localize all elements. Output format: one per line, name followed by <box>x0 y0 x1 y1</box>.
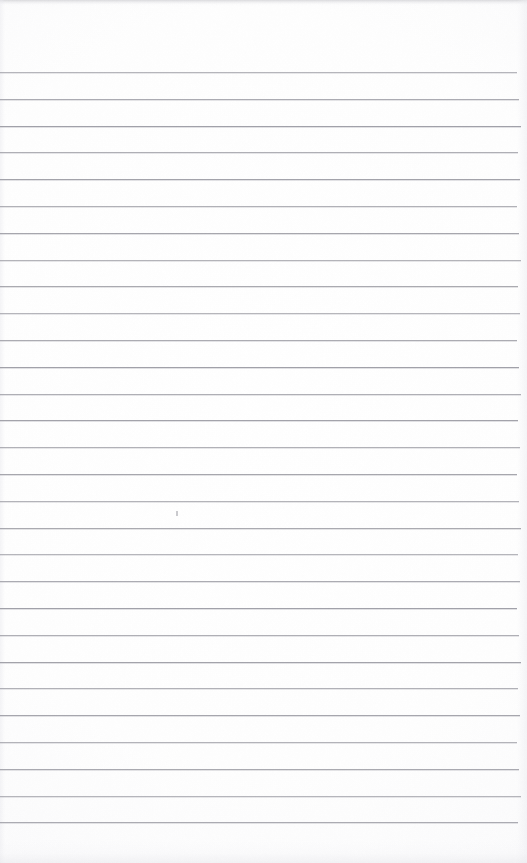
ruled-line <box>0 340 517 341</box>
ruled-lines-group <box>0 0 527 863</box>
ruled-line <box>0 367 519 368</box>
ruled-line <box>0 72 517 73</box>
ruled-line <box>0 474 517 475</box>
ruled-line <box>0 313 520 314</box>
ruled-line <box>0 715 520 716</box>
ruled-line <box>0 206 517 207</box>
ruled-line <box>0 554 518 555</box>
ruled-line <box>0 742 517 743</box>
ruled-line <box>0 179 520 180</box>
ruled-line <box>0 286 518 287</box>
ruled-line <box>0 420 518 421</box>
pencil-speck <box>176 511 178 516</box>
ruled-line <box>0 501 519 502</box>
ruled-line <box>0 662 521 663</box>
ruled-line <box>0 635 519 636</box>
ruled-line <box>0 581 520 582</box>
ruled-line <box>0 769 519 770</box>
ruled-line <box>0 126 521 127</box>
ruled-line <box>0 447 520 448</box>
scanned-page <box>0 0 527 863</box>
ruled-line <box>0 528 521 529</box>
ruled-line <box>0 608 517 609</box>
ruled-line <box>0 233 519 234</box>
ruled-line <box>0 99 519 100</box>
ruled-line <box>0 796 521 797</box>
ruled-line <box>0 394 521 395</box>
ruled-line <box>0 152 518 153</box>
ruled-line <box>0 688 518 689</box>
ruled-line <box>0 822 518 823</box>
ruled-line <box>0 260 521 261</box>
